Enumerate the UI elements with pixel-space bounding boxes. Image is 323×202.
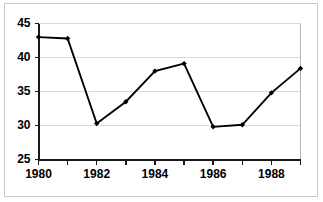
- x-axis-label-1980: 1980: [25, 167, 52, 181]
- y-axis-label-45: 45: [17, 16, 31, 30]
- data-point-1980: [36, 34, 41, 39]
- y-axis-label-30: 30: [17, 118, 31, 132]
- series-polyline: [39, 37, 301, 127]
- y-axis-label-40: 40: [17, 50, 31, 64]
- gridlines: [39, 24, 301, 126]
- y-axis-label-25: 25: [17, 152, 31, 166]
- x-axis-label-1986: 1986: [200, 167, 227, 181]
- data-point-1981: [65, 36, 70, 41]
- chart-canvas: 2530354045 19801982198419861988: [0, 0, 323, 202]
- x-axis-tick-labels: 19801982198419861988: [25, 167, 285, 181]
- y-axis: [35, 24, 39, 160]
- x-axis-label-1982: 1982: [83, 167, 110, 181]
- x-axis-label-1988: 1988: [258, 167, 285, 181]
- x-axis: [39, 160, 301, 165]
- y-axis-tick-labels: 2530354045: [17, 16, 31, 166]
- y-axis-label-35: 35: [17, 84, 31, 98]
- data-point-markers: [36, 34, 303, 129]
- x-axis-label-1984: 1984: [142, 167, 169, 181]
- data-series-line: [39, 37, 301, 127]
- line-chart: 2530354045 19801982198419861988: [0, 0, 323, 202]
